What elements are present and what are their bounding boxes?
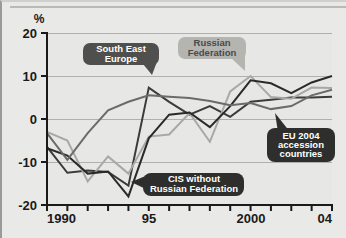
figure-container: % 20 10 0 -10 -20 1990 95 2000 04 South … [0,0,346,238]
x-tick-label-95: 95 [142,211,156,226]
line-chart: % 20 10 0 -10 -20 1990 95 2000 04 South … [2,2,346,238]
y-axis-unit-label: % [34,12,45,26]
callout-line-sse-2: Europe [105,53,138,64]
y-tick-label-20: 20 [23,26,37,41]
x-tick-label-1990: 1990 [47,211,76,226]
callout-line-rf-2: Federation [188,47,237,58]
y-tick-label-neg10: -10 [18,155,37,170]
x-tick-label-04: 04 [318,211,333,226]
y-tick-label-0: 0 [30,112,37,127]
callout-line-cis-2: Russian Federation [150,183,238,194]
y-tick-label-10: 10 [23,69,37,84]
x-tick-label-2000: 2000 [237,211,266,226]
callout-cis-without-russian-federation[interactable]: CIS without Russian Federation [131,173,244,196]
y-tick-label-neg20: -20 [18,198,37,213]
callout-line-eu-3: countries [280,148,323,159]
